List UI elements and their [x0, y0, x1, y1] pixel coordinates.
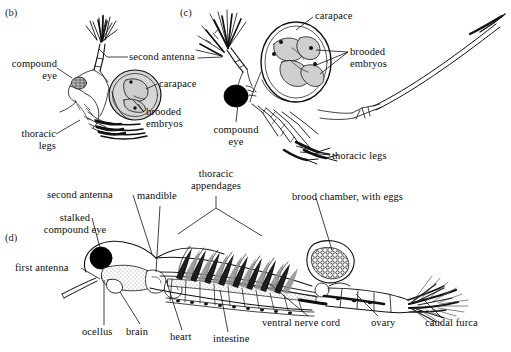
panel-d-organism: [62, 241, 468, 326]
label-b-carapace: carapace: [159, 78, 197, 90]
label-d-ovary: ovary: [371, 317, 395, 329]
label-d-thoracic-appendages: thoracic appendages: [177, 168, 255, 191]
label-d-ventral-nerve-cord: ventral nerve cord: [262, 317, 340, 329]
anatomy-figure: (b) (c) (d) second antenna compound eye …: [0, 0, 511, 352]
label-d-ocellus: ocellus: [82, 326, 112, 338]
panel-tag-b: (b): [5, 7, 17, 18]
label-d-mandible: mandible: [137, 190, 177, 202]
label-b-brooded-embryos: brooded embryos: [146, 106, 183, 129]
label-d-stalked-compound-eye: stalked compound eye: [26, 212, 124, 235]
label-c-compound-eye: compound eye: [205, 124, 267, 147]
label-b-thoracic-legs: thoracic legs: [0, 128, 56, 151]
label-d-intestine: intestine: [213, 333, 249, 345]
label-d-first-antenna: first antenna: [15, 262, 69, 274]
label-d-caudal-furca: caudal furca: [425, 317, 478, 329]
label-b-compound-eye: compound eye: [0, 58, 57, 81]
label-c-thoracic-legs: thoracic legs: [332, 150, 387, 162]
label-d-heart: heart: [170, 331, 192, 343]
label-d-brood-chamber: brood chamber, with eggs: [292, 191, 403, 203]
label-d-second-antenna: second antenna: [47, 189, 113, 201]
label-c-brooded-embryos: brooded embryos: [350, 46, 387, 69]
figure-artwork: [0, 0, 511, 352]
label-b-second-antenna: second antenna: [129, 51, 195, 63]
label-c-carapace: carapace: [315, 10, 353, 22]
panel-tag-d: (d): [5, 232, 17, 243]
label-d-brain: brain: [126, 326, 148, 338]
panel-tag-c: (c): [180, 7, 192, 18]
